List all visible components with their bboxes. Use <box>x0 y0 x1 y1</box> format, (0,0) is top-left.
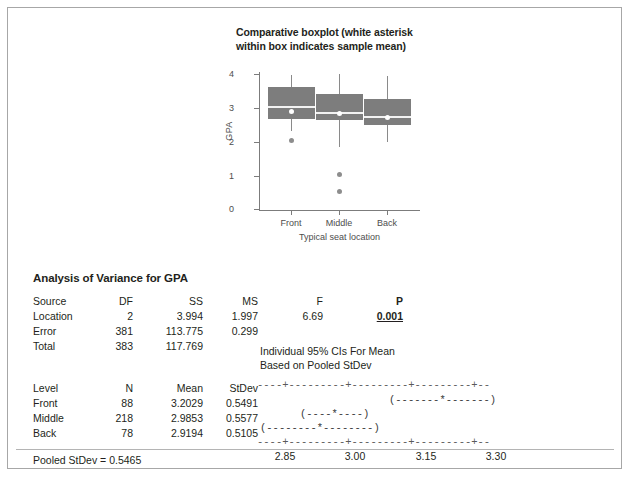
anova-row-location-source: Location <box>33 309 73 324</box>
anova-row-total-source: Total <box>33 339 55 354</box>
outlier-middle-2 <box>337 189 342 194</box>
levels-row-back-stdev: 0.5105 <box>208 426 258 441</box>
levels-header-level: Level <box>33 381 58 396</box>
mean-marker-front <box>289 109 294 114</box>
ci-tick-label-2: 3.00 <box>335 450 375 462</box>
x-tick-front <box>291 210 292 215</box>
ci-heading: Individual 95% CIs For Mean Based on Poo… <box>260 344 395 372</box>
ci-axis-ruler-top: ----+---------+---------+---------+-- <box>257 379 490 391</box>
box-middle-upper <box>316 94 363 112</box>
ci-tick-label-3: 3.15 <box>406 450 446 462</box>
ci-bar-middle: (----*----) <box>300 408 369 420</box>
anova-row-total-df: 383 <box>103 339 133 354</box>
y-tick-label-4: 4 <box>204 70 234 79</box>
y-tick-label-1: 1 <box>204 172 234 181</box>
anova-row-error-df: 381 <box>103 324 133 339</box>
anova-row-location-ms: 1.997 <box>208 309 258 324</box>
levels-row-front-level: Front <box>33 396 58 411</box>
levels-row-middle-stdev: 0.5577 <box>208 411 258 426</box>
anova-header-ss: SS <box>148 294 203 309</box>
y-axis-label: GPA <box>224 121 234 141</box>
y-tick-label-3: 3 <box>204 104 234 113</box>
mean-marker-middle <box>337 111 342 116</box>
chart-title: Comparative boxplot (white asterisk with… <box>236 25 441 53</box>
x-tick-back <box>387 210 388 215</box>
y-axis-line <box>259 72 260 211</box>
anova-header-source: Source <box>33 294 66 309</box>
x-tick-label-back: Back <box>357 218 417 228</box>
anova-row-location-f: 6.69 <box>278 309 323 324</box>
levels-row-front-n: 88 <box>103 396 133 411</box>
levels-header-n: N <box>103 381 133 396</box>
ci-bar-back: (--------*--------) <box>260 422 380 434</box>
anova-row-total-ss: 117.769 <box>148 339 203 354</box>
anova-row-error-ms: 0.299 <box>208 324 258 339</box>
levels-row-middle-n: 218 <box>103 411 133 426</box>
y-tick-2 <box>254 142 259 143</box>
anova-row-location-df: 2 <box>103 309 133 324</box>
boxplot-chart: Comparative boxplot (white asterisk with… <box>223 16 438 256</box>
anova-header-f: F <box>278 294 323 309</box>
levels-header-stdev: StDev <box>208 381 258 396</box>
outlier-middle-1 <box>337 172 342 177</box>
levels-row-middle-level: Middle <box>33 411 64 426</box>
pooled-stdev: Pooled StDev = 0.5465 <box>33 453 141 468</box>
anova-header-df: DF <box>103 294 133 309</box>
anova-row-error-ss: 113.775 <box>148 324 203 339</box>
ci-axis-ruler-bottom: ----+---------+---------+---------+-- <box>257 436 490 448</box>
ci-bar-front: (-------*-------) <box>389 394 496 406</box>
levels-row-front-stdev: 0.5491 <box>208 396 258 411</box>
ci-tick-label-1: 2.85 <box>265 450 305 462</box>
ci-tick-label-4: 3.30 <box>476 450 516 462</box>
ci-heading-line2: Based on Pooled StDev <box>260 358 395 372</box>
anova-header-ms: MS <box>208 294 258 309</box>
y-tick-0 <box>254 209 259 210</box>
anova-row-error-source: Error <box>33 324 56 339</box>
anova-row-location-p: 0.001 <box>358 309 403 324</box>
levels-header-mean: Mean <box>148 381 203 396</box>
divider-line <box>16 449 614 450</box>
figure-frame: Comparative boxplot (white asterisk with… <box>7 7 622 469</box>
anova-header-p: P <box>358 294 403 309</box>
x-tick-middle <box>339 210 340 215</box>
levels-row-back-n: 78 <box>103 426 133 441</box>
y-tick-label-0: 0 <box>204 205 234 214</box>
mean-marker-back <box>385 115 390 120</box>
box-front-upper <box>268 87 315 106</box>
ci-heading-line1: Individual 95% CIs For Mean <box>260 344 395 358</box>
levels-row-middle-mean: 2.9853 <box>148 411 203 426</box>
plot-area: 4 3 2 1 0 GPA <box>235 68 425 233</box>
y-tick-4 <box>254 74 259 75</box>
y-tick-3 <box>254 108 259 109</box>
anova-row-location-ss: 3.994 <box>148 309 203 324</box>
anova-title: Analysis of Variance for GPA <box>33 272 188 284</box>
outlier-front-1 <box>289 138 294 143</box>
y-tick-1 <box>254 176 259 177</box>
levels-row-back-level: Back <box>33 426 56 441</box>
x-axis-label: Typical seat location <box>259 232 420 242</box>
levels-row-back-mean: 2.9194 <box>148 426 203 441</box>
levels-row-front-mean: 3.2029 <box>148 396 203 411</box>
box-back-upper <box>364 99 411 116</box>
